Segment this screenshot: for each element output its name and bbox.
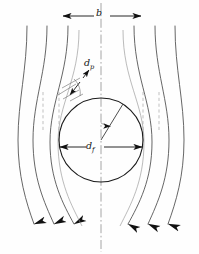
label-df: df: [86, 141, 95, 153]
label-b: b: [96, 8, 102, 18]
dp-hatch-marks: [58, 78, 83, 101]
dp-leader-lower: [70, 82, 80, 95]
radius-line: [101, 104, 123, 140]
streamline-right-outer: [168, 26, 184, 224]
dp-leader-upper: [83, 70, 89, 78]
flow-diagram-svg: [0, 0, 199, 254]
streamline-near-left: [58, 30, 82, 226]
streamline-group-right: [128, 26, 184, 224]
label-dp-subscript: p: [90, 63, 94, 71]
label-dp: dp: [84, 58, 94, 70]
angle-arc: [101, 123, 111, 126]
label-df-subscript: f: [92, 146, 94, 154]
streamline-near-right: [120, 30, 144, 226]
figure-root: b dp df: [0, 0, 199, 254]
streamline-left-outer: [18, 26, 34, 224]
dimension-dp: [58, 70, 89, 101]
streamline-group-left: [18, 26, 74, 224]
